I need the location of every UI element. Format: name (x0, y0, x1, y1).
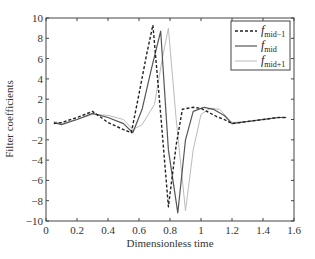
x-tick-label: 1.4 (256, 224, 270, 236)
filter-coefficients-chart: 00.20.40.60.811.21.41.6 −10−8−6−4−202468… (0, 0, 315, 259)
x-tick-label: 0.4 (101, 224, 115, 236)
legend: fmid−1 fmid fmid+1 (231, 21, 290, 70)
y-tick-label: −6 (31, 174, 43, 186)
x-tick-label: 1.6 (287, 224, 301, 236)
y-tick-label: −4 (31, 154, 43, 166)
x-tick-label: 1 (198, 224, 204, 236)
x-tick-label: 0.6 (132, 224, 146, 236)
x-axis-label: Dimensionless time (126, 237, 213, 249)
y-tick-label: −10 (26, 215, 44, 227)
x-tick-label: 0.8 (163, 224, 177, 236)
y-tick-label: 4 (38, 73, 44, 85)
y-tick-label: 6 (38, 53, 44, 65)
y-tick-label: 10 (32, 12, 44, 24)
y-axis-label: Filter coefficients (3, 80, 15, 158)
y-tick-label: 0 (38, 114, 44, 126)
x-tick-label: 0 (43, 224, 49, 236)
y-tick-label: −8 (31, 195, 43, 207)
y-tick-label: 2 (38, 93, 44, 105)
y-tick-label: −2 (31, 134, 43, 146)
y-tick-label: 8 (38, 32, 44, 44)
x-tick-label: 0.2 (70, 224, 84, 236)
x-tick-label: 1.2 (225, 224, 239, 236)
